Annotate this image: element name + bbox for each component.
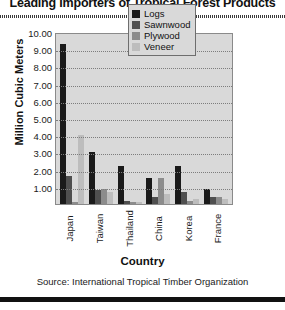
y-axis-tick-label: 6.00 [2,96,52,107]
footer-divider [0,297,285,302]
x-axis-ticks: JapanTaiwanThailandChinaKoreaFrance [55,207,233,253]
x-axis-tick-label: Thailand [124,210,135,246]
bar-veneer-france[interactable] [222,199,228,204]
legend-swatch-icon [132,32,140,40]
x-axis-tick-label: China [153,216,164,241]
legend-label: Logs [144,8,165,19]
x-axis-tick-label: Japan [64,216,75,242]
gridline [56,68,232,69]
legend-label: Veneer [144,41,174,52]
gridline [56,86,232,87]
bar-group [146,34,170,204]
gridline [56,154,232,155]
y-axis-tick-label: 8.00 [2,62,52,73]
legend-item-plywood[interactable]: Plywood [132,30,190,41]
bars-container [56,34,232,204]
legend-swatch-icon [132,10,140,18]
y-axis-tick-label: 4.00 [2,131,52,142]
legend: LogsSawnwoodPlywoodVeneer [128,4,196,56]
bar-group [89,34,113,204]
x-axis-tick: Korea [174,207,202,253]
y-axis-tick-label: 5.00 [2,114,52,125]
bar-veneer-thailand[interactable] [136,202,142,204]
y-axis-tick-label: 9.00 [2,45,52,56]
plot-area [55,33,233,205]
gridline [56,172,232,173]
x-axis-label: Country [0,255,285,267]
y-axis-ticks: 10.009.008.007.006.005.004.003.002.001.0… [0,33,52,205]
bar-group [60,34,84,204]
gridline [56,103,232,104]
legend-label: Plywood [144,30,180,41]
legend-label: Sawnwood [144,19,190,30]
legend-item-logs[interactable]: Logs [132,8,190,19]
bar-sawnwood-japan[interactable] [66,176,72,204]
x-axis-tick-label: Korea [183,216,194,241]
legend-swatch-icon [132,21,140,29]
legend-swatch-icon [132,43,140,51]
bar-group [175,34,199,204]
bar-group [118,34,142,204]
legend-item-sawnwood[interactable]: Sawnwood [132,19,190,30]
gridline [56,120,232,121]
bar-veneer-korea[interactable] [193,199,199,204]
x-axis-tick-label: Taiwan [94,214,105,244]
bar-veneer-japan[interactable] [78,135,84,204]
x-axis-tick: Thailand [115,207,143,253]
y-axis-tick-label: 2.00 [2,165,52,176]
y-axis-tick-label: 10.00 [2,28,52,39]
bar-group [204,34,228,204]
legend-item-veneer[interactable]: Veneer [132,41,190,52]
x-axis-tick: Japan [56,207,84,253]
gridline [56,189,232,190]
source-note: Source: International Tropical Timber Or… [0,276,285,287]
y-axis-tick-label: 3.00 [2,148,52,159]
y-axis-tick-label: 1.00 [2,182,52,193]
gridline [56,137,232,138]
y-axis-tick-label: 7.00 [2,79,52,90]
x-axis-tick-label: France [213,214,224,244]
x-axis-tick: France [204,207,232,253]
bar-veneer-china[interactable] [164,194,170,204]
bar-veneer-taiwan[interactable] [107,192,113,204]
x-axis-tick: China [145,207,173,253]
x-axis-tick: Taiwan [85,207,113,253]
